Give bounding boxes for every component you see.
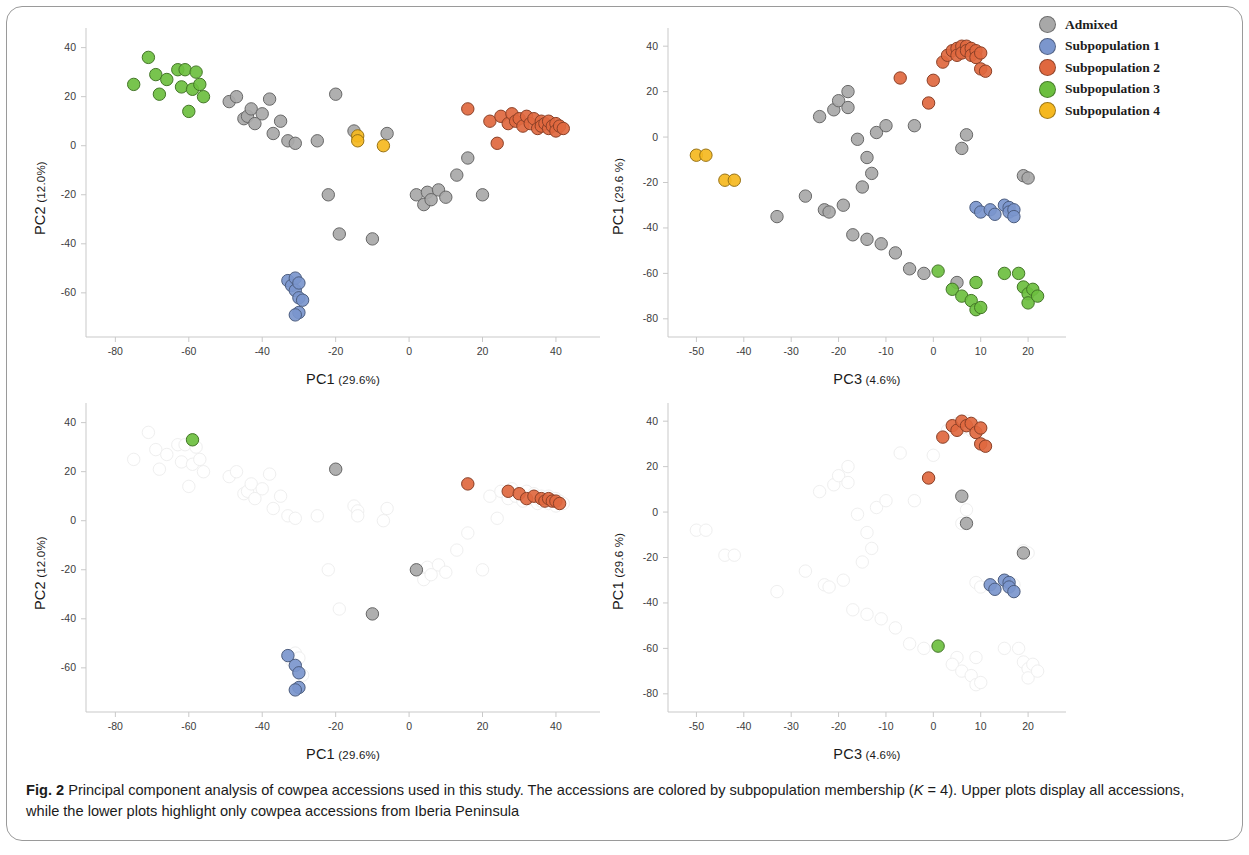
y-tick-label: -60: [61, 286, 76, 298]
data-point: [842, 101, 854, 113]
data-point: [960, 129, 972, 141]
legend: AdmixedSubpopulation 1Subpopulation 2Sub…: [1039, 14, 1235, 122]
legend-item-2: Subpopulation 2: [1039, 57, 1235, 79]
data-point-faded: [161, 448, 173, 460]
x-tick-label: -20: [831, 345, 846, 357]
x-tick-label: -40: [255, 720, 270, 732]
scatter-plot-bottom-left: 40200-20-40-60-80-60-40-2002040 PC1 (29.…: [18, 385, 618, 770]
data-point: [799, 190, 811, 202]
plot-canvas-top-left: 40200-20-40-60-80-60-40-2002040: [18, 10, 618, 395]
data-point: [462, 478, 474, 490]
data-point-faded: [142, 426, 154, 438]
x-axis-title-name: PC3: [833, 746, 862, 762]
data-point-faded: [256, 483, 268, 495]
x-tick-label: 20: [477, 720, 489, 732]
x-tick-label: 0: [406, 345, 412, 357]
figure-caption: Fig. 2 Principal component analysis of c…: [26, 780, 1221, 822]
plot-svg-bottom-left: 40200-20-40-60-80-60-40-2002040: [18, 385, 618, 770]
data-point: [956, 142, 968, 154]
data-point: [289, 309, 301, 321]
y-tick-label: 0: [652, 131, 658, 143]
y-tick-label: -60: [61, 661, 76, 673]
data-point: [274, 115, 286, 127]
data-point: [381, 127, 393, 139]
data-point: [230, 91, 242, 103]
data-point: [903, 263, 915, 275]
data-point-faded: [889, 622, 901, 634]
data-point-faded: [771, 585, 783, 597]
data-point-faded: [851, 508, 863, 520]
data-point-faded: [894, 447, 906, 459]
plot-svg-bottom-right: 40200-20-40-60-80-50-40-30-20-1001020: [596, 385, 1156, 770]
data-point-faded: [837, 574, 849, 586]
data-point-faded: [842, 460, 854, 472]
y-tick-label: -20: [61, 188, 76, 200]
data-point-faded: [908, 495, 920, 507]
data-point: [932, 265, 944, 277]
x-tick-label: -40: [255, 345, 270, 357]
scatter-plot-bottom-right: 40200-20-40-60-80-50-40-30-20-1001020 PC…: [596, 385, 1156, 770]
x-tick-label: -30: [784, 345, 799, 357]
data-point-faded: [491, 512, 503, 524]
data-point: [1017, 547, 1029, 559]
y-tick-label: -40: [643, 596, 658, 608]
data-point: [128, 78, 140, 90]
data-point: [293, 667, 305, 679]
y-tick-label: 0: [70, 139, 76, 151]
data-point: [894, 72, 906, 84]
data-point: [153, 88, 165, 100]
data-point: [922, 472, 934, 484]
x-tick-label: 20: [477, 345, 489, 357]
data-point: [194, 78, 206, 90]
legend-swatch-icon: [1039, 38, 1056, 55]
data-point-faded: [861, 608, 873, 620]
data-point-faded: [451, 544, 463, 556]
data-point-faded: [311, 510, 323, 522]
x-tick-label: -30: [784, 720, 799, 732]
data-point: [700, 149, 712, 161]
data-point: [937, 431, 949, 443]
data-point: [998, 267, 1010, 279]
x-tick-label: 0: [406, 720, 412, 732]
x-tick-label: -20: [328, 345, 343, 357]
data-point: [823, 206, 835, 218]
data-point: [847, 229, 859, 241]
data-point-faded: [861, 526, 873, 538]
x-tick-label: -40: [736, 345, 751, 357]
data-point: [311, 135, 323, 147]
y-tick-label: -60: [643, 642, 658, 654]
data-point: [289, 684, 301, 696]
x-tick-label: 10: [975, 345, 987, 357]
legend-swatch-icon: [1039, 59, 1056, 76]
x-tick-label: -60: [181, 345, 196, 357]
y-tick-label: 40: [64, 41, 76, 53]
data-point-faded: [1012, 642, 1024, 654]
data-point-faded: [175, 456, 187, 468]
data-point: [728, 174, 740, 186]
y-tick-label: -40: [61, 612, 76, 624]
data-point: [975, 301, 987, 313]
data-point: [880, 120, 892, 132]
y-tick-label: -20: [643, 551, 658, 563]
data-point-faded: [799, 565, 811, 577]
x-axis-title: PC3 (4.6%): [668, 746, 1066, 762]
data-point: [875, 238, 887, 250]
y-tick-label: 0: [70, 514, 76, 526]
figure-container: 40200-20-40-60-80-60-40-2002040 PC1 (29.…: [0, 0, 1249, 855]
caption-k-symbol: K: [914, 782, 924, 798]
data-point: [866, 167, 878, 179]
data-point-faded: [377, 515, 389, 527]
data-point: [293, 277, 305, 289]
x-tick-label: 0: [930, 345, 936, 357]
y-axis-title: PC1 (29.6 %): [610, 157, 626, 234]
data-point: [410, 564, 422, 576]
data-point: [330, 88, 342, 100]
data-point: [352, 135, 364, 147]
data-point-faded: [440, 566, 452, 578]
data-point: [1031, 290, 1043, 302]
x-tick-label: -20: [831, 720, 846, 732]
y-axis-title-variance: (12.0%): [35, 161, 47, 206]
y-tick-label: 0: [652, 506, 658, 518]
x-tick-label: -80: [108, 345, 123, 357]
y-axis-title-variance: (12.0%): [35, 536, 47, 581]
